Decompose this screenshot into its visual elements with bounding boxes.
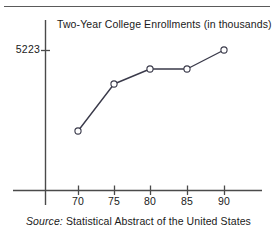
x-axis-tick-label-80: 80	[137, 195, 163, 207]
x-axis-tick-label-90: 90	[211, 195, 237, 207]
x-axis-tick-label-75: 75	[101, 195, 127, 207]
data-point-marker	[147, 66, 153, 72]
source-text: Statistical Abstract of the United State…	[63, 215, 251, 227]
source-label: Source:	[26, 215, 63, 227]
y-axis-tick-label: 5223	[10, 43, 40, 55]
data-point-marker	[75, 128, 81, 134]
x-axis-tick-label-70: 70	[65, 195, 91, 207]
data-series-line	[78, 50, 224, 131]
source-note: Source: Statistical Abstract of the Unit…	[26, 215, 251, 227]
data-point-marker	[111, 81, 117, 87]
x-axis-tick-label-85: 85	[174, 195, 200, 207]
data-point-marker	[184, 66, 190, 72]
chart-figure: Two-Year College Enrollments (in thousan…	[0, 0, 274, 238]
data-point-marker	[221, 47, 227, 53]
